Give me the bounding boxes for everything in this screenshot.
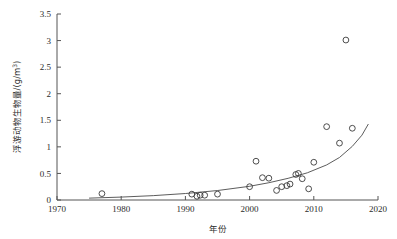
x-tick-label: 1980	[112, 204, 131, 214]
y-tick-label: 0	[47, 195, 52, 205]
y-tick-label: 3	[47, 36, 52, 46]
x-tick-label: 1990	[176, 204, 195, 214]
x-tick-label: 2010	[305, 204, 324, 214]
y-tick-label: 3.5	[40, 9, 52, 19]
scatter-plot-canvas: 197019801990200020102020 00.511.522.533.…	[0, 0, 397, 239]
trend-curve	[89, 124, 368, 198]
y-axis-tick-labels: 00.511.522.533.5	[40, 9, 52, 205]
data-point-marker	[260, 175, 266, 181]
y-tick-marks	[57, 14, 61, 200]
x-axis-tick-labels: 197019801990200020102020	[48, 204, 388, 214]
data-point-marker	[99, 191, 105, 197]
data-point-marker	[306, 186, 312, 192]
y-tick-label: 1.5	[40, 115, 52, 125]
data-point-marker	[215, 191, 221, 197]
y-tick-label: 1	[47, 142, 52, 152]
data-point-marker	[253, 158, 259, 164]
data-point-marker	[311, 159, 317, 165]
fit-curve-group	[89, 124, 368, 198]
data-point-marker	[324, 124, 330, 130]
y-tick-label: 2	[47, 89, 52, 99]
axes-group	[57, 14, 378, 200]
data-point-marker	[349, 125, 355, 131]
chart-figure: 197019801990200020102020 00.511.522.533.…	[0, 0, 397, 239]
data-point-marker	[266, 175, 272, 181]
data-point-marker	[274, 188, 280, 194]
data-point-group	[99, 37, 355, 199]
axis-frame	[57, 14, 378, 200]
y-axis-title: 浮游动物生物量/(g/m3)	[11, 61, 22, 154]
y-tick-label: 0.5	[40, 169, 52, 179]
data-point-marker	[343, 37, 349, 43]
x-axis-title: 年份	[209, 224, 227, 234]
x-tick-label: 1970	[48, 204, 67, 214]
x-tick-label: 2000	[241, 204, 260, 214]
data-point-marker	[299, 176, 305, 182]
y-tick-label: 2.5	[40, 62, 52, 72]
data-point-marker	[337, 140, 343, 146]
x-tick-label: 2020	[369, 204, 388, 214]
y-axis-title-group: 浮游动物生物量/(g/m3)	[11, 61, 22, 154]
